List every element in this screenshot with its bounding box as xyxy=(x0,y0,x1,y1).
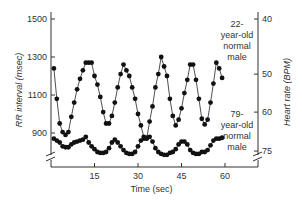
data-point xyxy=(168,96,173,101)
series-group xyxy=(52,55,225,158)
data-point xyxy=(107,121,112,126)
data-point xyxy=(72,100,77,105)
data-point xyxy=(57,140,62,145)
data-point xyxy=(89,60,94,65)
data-point xyxy=(153,85,158,90)
data-point xyxy=(124,68,129,73)
data-point xyxy=(118,144,123,149)
data-point xyxy=(208,143,213,148)
data-point xyxy=(130,85,135,90)
data-point xyxy=(92,74,97,79)
data-point xyxy=(173,147,178,152)
x-axis-title: Time (sec) xyxy=(130,184,172,194)
annotation-79yo: 79- xyxy=(230,109,243,119)
data-point xyxy=(159,55,164,60)
data-point xyxy=(220,76,225,81)
data-point xyxy=(121,62,126,67)
data-point xyxy=(179,106,184,111)
data-point xyxy=(156,72,161,77)
annotation-22yo: 22- xyxy=(230,19,243,29)
data-point xyxy=(170,114,175,119)
data-point xyxy=(136,144,141,149)
x-tick-label: 60 xyxy=(220,171,230,181)
data-point xyxy=(133,96,138,101)
y2-tick-label: 50 xyxy=(262,69,272,79)
data-point xyxy=(185,77,190,82)
y2-tick-label: 60 xyxy=(262,107,272,117)
x-tick-label: 30 xyxy=(133,171,143,181)
y-tick-label: 1100 xyxy=(28,90,47,100)
y-tick-label: 1300 xyxy=(27,52,47,62)
data-point xyxy=(95,82,100,87)
data-point xyxy=(197,96,202,101)
data-point xyxy=(208,100,213,105)
data-point xyxy=(211,81,216,86)
data-point xyxy=(52,66,57,71)
data-point xyxy=(194,77,199,82)
data-point xyxy=(217,66,222,71)
data-point xyxy=(57,121,62,126)
data-point xyxy=(112,100,117,105)
data-point xyxy=(185,142,190,147)
y-tick-label: 900 xyxy=(32,128,47,138)
data-point xyxy=(107,146,112,151)
data-point xyxy=(147,134,152,139)
data-point xyxy=(191,62,196,67)
hrv-chart: 9001100130015004050607515304560Time (sec… xyxy=(0,0,302,203)
data-point xyxy=(66,130,71,135)
annotation-79yo: male xyxy=(227,142,247,152)
data-point xyxy=(165,74,170,79)
annotation-22yo: male xyxy=(227,52,247,62)
annotation-79yo: year-old xyxy=(221,120,254,130)
data-point xyxy=(83,134,88,139)
data-point xyxy=(199,116,204,121)
data-point xyxy=(205,117,210,122)
data-point xyxy=(54,96,59,101)
data-point xyxy=(173,123,178,128)
x-tick-label: 45 xyxy=(176,171,186,181)
data-point xyxy=(162,64,167,69)
y-tick-label: 1500 xyxy=(27,14,47,24)
data-point xyxy=(150,139,155,144)
data-point xyxy=(101,110,106,115)
data-point xyxy=(150,104,155,109)
data-point xyxy=(214,60,219,65)
data-point xyxy=(139,123,144,128)
data-point xyxy=(75,87,80,92)
data-point xyxy=(81,68,86,73)
data-point xyxy=(147,119,152,124)
annotation-79yo: normal xyxy=(223,131,251,141)
y2-tick-label: 40 xyxy=(262,14,272,24)
annotation-22yo: year-old xyxy=(221,30,254,40)
data-point xyxy=(202,122,207,127)
data-point xyxy=(153,146,158,151)
data-point xyxy=(205,148,210,153)
y-axis-title: RR interval (msec) xyxy=(14,53,24,128)
y2-tick-label: 75 xyxy=(262,146,272,156)
data-point xyxy=(98,95,103,100)
data-point xyxy=(127,74,132,79)
annotations: 22-year-oldnormalmale79-year-oldnormalma… xyxy=(221,19,254,152)
annotation-22yo: normal xyxy=(223,41,251,51)
y2-axis-title: Heart rate (BPM) xyxy=(282,58,292,126)
data-point xyxy=(176,117,181,122)
data-point xyxy=(104,150,109,155)
data-point xyxy=(115,140,120,145)
x-tick-label: 15 xyxy=(89,171,99,181)
data-point xyxy=(118,72,123,77)
data-point xyxy=(136,112,141,117)
data-point xyxy=(115,85,120,90)
data-point xyxy=(78,76,83,81)
data-point xyxy=(182,91,187,96)
data-point xyxy=(110,114,115,119)
data-point xyxy=(86,140,91,145)
data-point xyxy=(69,114,74,119)
data-point xyxy=(133,150,138,155)
